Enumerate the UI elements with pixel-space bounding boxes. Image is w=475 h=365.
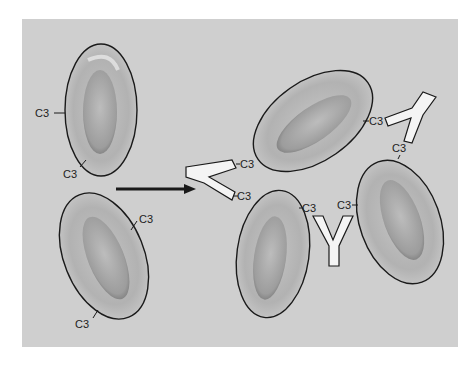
c3-label: C3 — [392, 142, 406, 154]
c3-label: C3 — [337, 199, 351, 211]
agglutination-diagram: C3 C3 C3 C3 C3 C3 C3 — [0, 0, 475, 365]
c3-label: C3 — [139, 213, 153, 225]
c3-label: C3 — [240, 158, 254, 170]
c3-label: C3 — [369, 115, 383, 127]
c3-label: C3 — [63, 168, 77, 180]
c3-label: C3 — [35, 107, 49, 119]
c3-label: C3 — [237, 190, 251, 202]
c3-label: C3 — [302, 202, 316, 214]
c3-label: C3 — [75, 318, 89, 330]
